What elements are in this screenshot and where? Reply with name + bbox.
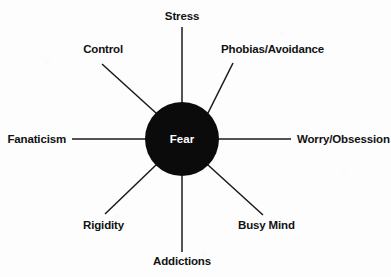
diagram-canvas: Fear Stress Phobias/Avoidance Worry/Obse… [0, 0, 391, 277]
node-label-phobias-avoidance: Phobias/Avoidance [221, 43, 324, 55]
node-label-fanaticism: Fanaticism [7, 133, 66, 145]
node-label-stress: Stress [165, 10, 199, 22]
node-label-addictions: Addictions [153, 255, 211, 267]
fear-radial-diagram: Fear Stress Phobias/Avoidance Worry/Obse… [0, 0, 391, 277]
node-label-worry-obsession: Worry/Obsession [297, 133, 390, 145]
spoke-line-busy-mind [208, 165, 263, 215]
node-label-rigidity: Rigidity [83, 219, 125, 231]
spoke-line-control [102, 64, 156, 113]
spoke-line-phobias-avoidance [208, 63, 233, 113]
node-label-busy-mind: Busy Mind [238, 219, 295, 231]
spoke-line-rigidity [105, 165, 156, 214]
hub-label: Fear [170, 133, 195, 145]
node-label-control: Control [83, 43, 123, 55]
